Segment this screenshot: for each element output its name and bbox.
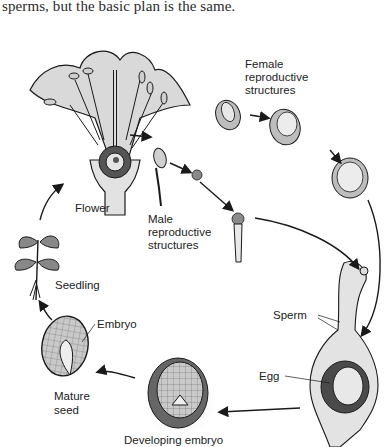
flower-illustration [30, 51, 190, 215]
mature-seed-illustration [37, 312, 93, 379]
label-egg: Egg [259, 370, 279, 383]
label-developing-embryo: Developing embryo [124, 434, 223, 447]
label-male-2: reproductive [148, 226, 211, 239]
label-female-3: structures [245, 84, 296, 97]
label-sperm: Sperm [273, 309, 307, 322]
seedling-illustration [15, 236, 59, 300]
label-male-1: Male [148, 213, 173, 226]
label-male-3: structures [148, 239, 199, 252]
label-embryo: Embryo [97, 318, 137, 331]
developing-embryo-illustration [140, 358, 220, 442]
fertilization-illustration [310, 262, 378, 447]
label-mature-seed-1: Mature [54, 390, 90, 403]
label-seedling: Seedling [55, 279, 100, 292]
label-mature-seed-2: seed [54, 404, 79, 417]
label-flower: Flower [75, 202, 110, 215]
life-cycle-diagram [0, 0, 385, 447]
female-structures-illustration [212, 97, 368, 198]
label-female-1: Female [245, 58, 283, 71]
label-female-2: reproductive [245, 71, 308, 84]
